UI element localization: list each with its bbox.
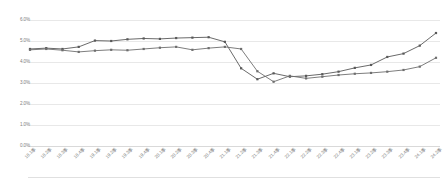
series-marker: [256, 70, 258, 72]
series-marker: [126, 38, 128, 40]
series-marker: [175, 37, 177, 39]
x-axis-tick-label: 23.4季: [398, 147, 411, 160]
series-marker: [191, 37, 193, 39]
y-axis-tick-label: 3.0%: [6, 81, 30, 86]
series-line: [30, 47, 436, 82]
x-axis-tick-label: 24.2季: [430, 147, 443, 160]
x-axis-tick-label: 22.1季: [284, 147, 297, 160]
series-marker: [208, 47, 210, 49]
series-marker: [402, 69, 404, 71]
series-marker: [240, 48, 242, 50]
x-axis-tick-label: 20.3季: [187, 147, 200, 160]
series-marker: [78, 51, 80, 53]
x-axis-tick-label: 22.2季: [301, 147, 314, 160]
series-marker: [126, 49, 128, 51]
x-axis-tick-label: 21.1季: [219, 147, 232, 160]
series-marker: [143, 48, 145, 50]
x-axis-tick-label: 19.1季: [89, 147, 102, 160]
x-axis-tick-label: 20.1季: [154, 147, 167, 160]
series-marker: [321, 76, 323, 78]
x-axis-tick-label: 23.2季: [366, 147, 379, 160]
x-axis-tick-label: 20.4季: [203, 147, 216, 160]
y-axis-tick-label: 2.0%: [6, 102, 30, 107]
y-axis-tick-label: 1.0%: [6, 123, 30, 128]
series-marker: [208, 36, 210, 38]
x-axis-tick-label: 18.4季: [73, 147, 86, 160]
y-axis-tick-label: 4.0%: [6, 60, 30, 65]
series-marker: [386, 71, 388, 73]
series-marker: [273, 81, 275, 83]
series-marker: [370, 64, 372, 66]
x-axis-tick-label: 21.3季: [252, 147, 265, 160]
series-marker: [419, 66, 421, 68]
series-marker: [29, 49, 31, 51]
series-marker: [159, 38, 161, 40]
x-axis-tick-label: 18.1季: [24, 147, 37, 160]
series-marker: [175, 46, 177, 48]
series-marker: [45, 48, 47, 50]
series-marker: [61, 49, 63, 51]
x-axis-labels: 18.1季18.2季18.3季18.4季19.1季19.2季19.3季19.4季…: [28, 147, 440, 184]
x-axis-tick-label: 19.4季: [138, 147, 151, 160]
x-axis-tick-label: 22.4季: [333, 147, 346, 160]
series-marker: [143, 37, 145, 39]
series-marker: [419, 45, 421, 47]
series-marker: [224, 46, 226, 48]
series-marker: [110, 49, 112, 51]
series-marker: [224, 41, 226, 43]
x-axis-tick-label: 22.3季: [317, 147, 330, 160]
series-marker: [370, 72, 372, 74]
series-marker: [94, 39, 96, 41]
series-marker: [354, 73, 356, 75]
series-marker: [321, 73, 323, 75]
series-marker: [289, 75, 291, 77]
series-marker: [256, 78, 258, 80]
line-chart: 6.0%5.0%4.0%3.0%2.0%1.0%0.0% 18.1季18.2季1…: [0, 0, 448, 184]
series-marker: [435, 32, 437, 34]
series-marker: [354, 67, 356, 69]
x-axis-tick-label: 21.2季: [236, 147, 249, 160]
series-group: [28, 20, 440, 146]
series-marker: [337, 74, 339, 76]
series-marker: [402, 53, 404, 55]
chart-bottom-rule: [28, 177, 440, 178]
series-marker: [305, 75, 307, 77]
x-axis-tick-label: 23.3季: [382, 147, 395, 160]
x-axis-tick-label: 24.1季: [414, 147, 427, 160]
x-axis-tick-label: 23.1季: [349, 147, 362, 160]
series-marker: [94, 50, 96, 52]
series-marker: [78, 46, 80, 48]
series-marker: [273, 72, 275, 74]
series-marker: [337, 71, 339, 73]
x-axis-tick-label: 21.4季: [268, 147, 281, 160]
x-axis-tick-label: 18.3季: [57, 147, 70, 160]
series-marker: [435, 57, 437, 59]
plot-area: [28, 20, 440, 146]
series-marker: [305, 77, 307, 79]
y-axis-tick-label: 5.0%: [6, 39, 30, 44]
series-marker: [159, 47, 161, 49]
x-axis-tick-label: 19.3季: [122, 147, 135, 160]
series-marker: [110, 40, 112, 42]
series-marker: [191, 49, 193, 51]
series-marker: [240, 67, 242, 69]
x-axis-tick-label: 18.2季: [41, 147, 54, 160]
y-axis-tick-label: 0.0%: [6, 144, 30, 149]
y-axis-tick-label: 6.0%: [6, 18, 30, 23]
x-axis-tick-label: 20.2季: [171, 147, 184, 160]
x-axis-tick-label: 19.2季: [106, 147, 119, 160]
series-marker: [386, 56, 388, 58]
